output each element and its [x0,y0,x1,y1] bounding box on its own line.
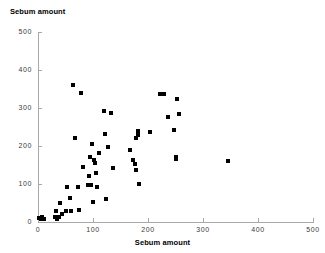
data-point [90,142,94,146]
data-point [68,196,72,200]
scatter-chart: Sebum amount 0100200300400500 0100200300… [0,0,325,253]
y-tick-label: 500 [4,28,32,35]
chart-title: Sebum amount [10,7,65,16]
y-tick-label: 100 [4,180,32,187]
data-point [134,168,138,172]
data-point [89,183,93,187]
data-point [102,109,106,113]
data-point [106,145,110,149]
data-point [69,209,73,213]
data-point [97,151,101,155]
data-point [58,201,62,205]
data-point [93,161,97,165]
data-point [166,115,170,119]
data-point [172,128,176,132]
data-point [57,215,61,219]
data-point [177,112,181,116]
data-point [128,148,132,152]
x-tick-label: 0 [23,226,53,233]
y-tick-label: 300 [4,104,32,111]
data-point [71,83,75,87]
data-point [81,165,85,169]
x-tick-label: 100 [78,226,108,233]
data-point [77,208,81,212]
data-point [76,185,80,189]
data-point [42,217,46,221]
data-point [87,174,91,178]
plot-area [38,32,313,222]
data-point [137,182,141,186]
y-tick-label: 0 [4,218,32,225]
y-tick-label: 400 [4,66,32,73]
x-axis-line [38,222,314,223]
data-point [94,171,98,175]
data-point [136,129,140,133]
data-point [95,185,99,189]
data-point [111,166,115,170]
data-point [174,157,178,161]
data-point [64,209,68,213]
data-point [148,130,152,134]
data-point [103,132,107,136]
data-point [136,133,140,137]
data-point [109,111,113,115]
x-tick-label: 500 [298,226,325,233]
data-point [133,162,137,166]
x-tick-mark [313,218,314,222]
x-axis-title: Sebum amount [0,238,325,247]
data-point [162,92,166,96]
data-point [79,91,83,95]
data-point [226,159,230,163]
data-point [175,97,179,101]
data-point [73,136,77,140]
data-point [54,209,58,213]
data-point [104,197,108,201]
x-tick-label: 300 [188,226,218,233]
data-point [91,200,95,204]
x-tick-label: 200 [133,226,163,233]
x-tick-label: 400 [243,226,273,233]
y-tick-label: 200 [4,142,32,149]
y-tick-mark [38,222,42,223]
data-point [65,185,69,189]
